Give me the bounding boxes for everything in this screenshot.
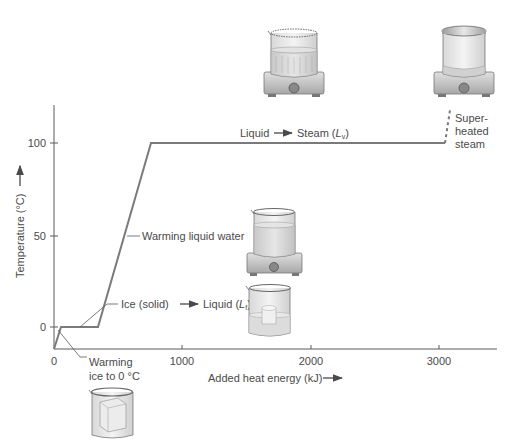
warming-water-label: Warming liquid water (142, 230, 245, 242)
svg-text:Steam (Lv): Steam (Lv) (297, 127, 349, 140)
beaker-melting-ice (246, 285, 291, 337)
annotation-warming-ice: Warming ice to 0 °C (58, 330, 140, 382)
x-tick-label-0: 0 (51, 355, 57, 367)
beaker-ice-cube (89, 388, 133, 438)
knob-icon (459, 83, 469, 93)
beaker-water-on-hotplate (247, 209, 302, 277)
svg-text:Liquid (Lf): Liquid (Lf) (203, 298, 251, 311)
heating-curve-figure: 100 50 0 Temperature (°C) 0 1000 2000 30… (0, 0, 507, 442)
x-tick-label-3000: 3000 (427, 355, 451, 367)
boiling-label-suffix: Steam ( (297, 127, 336, 139)
y-tick-label-0: 0 (40, 321, 46, 333)
x-tick-label-1000: 1000 (170, 355, 194, 367)
covered-beaker-on-hotplate (434, 26, 494, 97)
y-axis-title-text: Temperature (°C) (14, 194, 26, 278)
svg-text:Ice (solid): Ice (solid) (121, 298, 169, 310)
boiling-close: ) (345, 127, 349, 139)
annotation-superheated: Super- heated steam (455, 112, 489, 150)
warming-ice-label-line1: Warming (89, 356, 133, 368)
melting-label-prefix: Ice (solid) (121, 298, 169, 310)
superheated-dashed-line (445, 110, 450, 143)
annotation-boiling: Liquid Steam (Lv) (240, 127, 349, 140)
warming-ice-label-line2: ice to 0 °C (89, 370, 140, 382)
y-axis: 100 50 0 (28, 105, 58, 349)
boiling-label-prefix: Liquid (240, 127, 269, 139)
knob-icon (289, 83, 299, 93)
superheated-label-line2: heated (455, 125, 489, 137)
y-tick-label-100: 100 (28, 137, 46, 149)
x-axis-title: Added heat energy (kJ) (208, 372, 342, 384)
knob-icon (270, 263, 279, 272)
annotation-warming-water: Warming liquid water (127, 230, 245, 242)
melting-label-suffix: Liquid ( (203, 298, 239, 310)
x-tick-label-2000: 2000 (299, 355, 323, 367)
svg-text:Liquid: Liquid (240, 127, 269, 139)
superheated-label-line1: Super- (455, 112, 488, 124)
beaker-boiling-on-hotplate (264, 29, 324, 97)
y-tick-label-50: 50 (34, 230, 46, 242)
superheated-label-line3: steam (455, 138, 485, 150)
x-axis-title-text: Added heat energy (kJ) (208, 372, 322, 384)
y-axis-title: Temperature (°C) (14, 166, 26, 278)
